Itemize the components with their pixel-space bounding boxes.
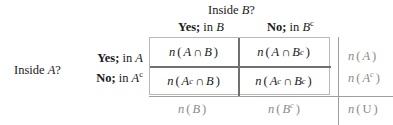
row-header-yes-answer: Yes; bbox=[97, 51, 119, 65]
total-set: B bbox=[282, 102, 290, 116]
column-header-no-connector: in bbox=[286, 20, 302, 34]
column-total-bc: n(Bc) bbox=[268, 103, 302, 116]
total-set: B bbox=[192, 102, 200, 116]
cell-right-set: B bbox=[204, 45, 212, 60]
column-group-title-prefix: Inside bbox=[208, 3, 242, 17]
intersection-icon: ∩ bbox=[279, 45, 292, 60]
column-header-yes-answer: Yes; bbox=[178, 20, 200, 34]
cell-right-set: B bbox=[206, 74, 214, 89]
cell-left-set: A bbox=[270, 74, 278, 89]
column-header-yes: Yes; in B bbox=[178, 21, 224, 34]
intersection-icon: ∩ bbox=[193, 74, 206, 89]
column-header-no: No; in Bc bbox=[267, 21, 314, 34]
row-header-yes-connector: in bbox=[119, 51, 135, 65]
column-header-yes-set: B bbox=[216, 20, 224, 34]
table-cell-ac-and-bc: n(Ac∩Bc) bbox=[240, 67, 329, 95]
total-set: A bbox=[362, 71, 370, 85]
row-header-no: No; in Ac bbox=[59, 72, 143, 85]
row-header-no-connector: in bbox=[116, 71, 132, 85]
horizontal-divider bbox=[150, 66, 331, 68]
row-header-no-answer: No; bbox=[96, 71, 115, 85]
table-cell-a-and-b: n(A∩B) bbox=[150, 38, 239, 66]
column-header-no-complement-icon: c bbox=[310, 18, 314, 28]
grand-total-u: n(U) bbox=[348, 103, 380, 116]
cell-right-set: B bbox=[292, 45, 300, 60]
row-total-a: n(A) bbox=[348, 50, 378, 63]
cell-left-set: A bbox=[182, 74, 190, 89]
contingency-table-figure: Inside B? Yes; in B No; in Bc Inside A? … bbox=[0, 0, 393, 125]
column-total-b: n(B) bbox=[178, 103, 208, 116]
row-header-no-complement-icon: c bbox=[139, 69, 143, 79]
total-set: A bbox=[362, 49, 370, 63]
column-group-title: Inside B? bbox=[208, 4, 255, 17]
vertical-divider bbox=[238, 38, 240, 96]
row-group-title: Inside A? bbox=[14, 64, 61, 77]
table-cell-ac-and-b: n(Ac∩B) bbox=[150, 67, 239, 95]
cell-left-set: A bbox=[183, 45, 191, 60]
table-body: n(A∩B) n(A∩Bc) n(Ac∩B) n(Ac∩Bc) bbox=[149, 37, 330, 95]
column-header-yes-connector: in bbox=[200, 20, 216, 34]
row-header-yes-set: A bbox=[135, 51, 143, 65]
row-header-yes: Yes; in A bbox=[59, 52, 143, 65]
intersection-icon: ∩ bbox=[191, 45, 204, 60]
table-cell-a-and-bc: n(A∩Bc) bbox=[240, 38, 329, 66]
intersection-icon: ∩ bbox=[281, 74, 294, 89]
bottom-rule-line bbox=[149, 96, 393, 97]
column-header-no-set: B bbox=[302, 20, 310, 34]
row-total-ac: n(Ac) bbox=[348, 72, 382, 85]
cell-left-set: A bbox=[272, 45, 280, 60]
cell-right-set: B bbox=[294, 74, 302, 89]
column-group-title-suffix: ? bbox=[249, 3, 255, 17]
row-group-title-prefix: Inside bbox=[14, 63, 48, 77]
column-header-no-answer: No; bbox=[267, 20, 286, 34]
right-rule-line bbox=[338, 37, 339, 125]
